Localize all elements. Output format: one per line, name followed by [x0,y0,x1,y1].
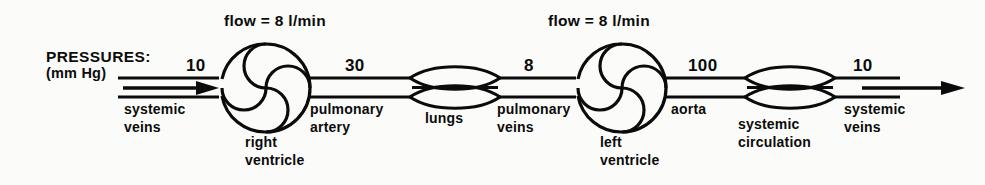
organ-label-right-ventricle-line2: ventricle [245,152,304,169]
organ-label-left-ventricle-line2: ventricle [600,152,659,169]
pressure-value-aorta: 100 [688,56,718,76]
vessel-pulmonary-artery [308,78,410,97]
vessel-label-pulmonary-artery-line2: artery [310,119,350,136]
flow-label-pulmonary: flow = 8 l/min [224,12,326,30]
lens-capillary-icon-systemic-circulation [745,67,835,109]
organ-label-systemic-circulation-line1: systemic [738,116,800,133]
arrow-right-icon-outflow [862,81,965,95]
vessel-pulmonary-veins [498,78,576,97]
vessel-label-aorta: aorta [671,101,706,118]
vessel-aorta [664,78,745,97]
vessel-label-pulmonary-veins-line2: veins [497,119,534,136]
circulation-diagram: flow = 8 l/min flow = 8 l/min PRESSURES:… [0,0,985,185]
organ-label-lungs: lungs [425,110,463,127]
pressure-value-pulmonary-veins: 8 [524,56,534,76]
pressures-legend-units: (mm Hg) [46,65,106,82]
vessel-label-systemic-veins-in-line1: systemic [124,101,186,118]
pressure-value-systemic-veins-out: 10 [853,56,873,76]
organ-label-left-ventricle-line1: left [600,134,622,151]
lens-capillary-icon-lungs [410,67,500,109]
pinwheel-pump-icon-right-ventricle [222,44,310,132]
organ-label-systemic-circulation-line2: circulation [738,134,811,151]
vessel-label-systemic-veins-in-line2: veins [124,119,161,136]
pressure-value-systemic-veins-in: 10 [186,56,206,76]
vessel-label-pulmonary-artery-line1: pulmonary [310,101,383,118]
pinwheel-pump-icon-left-ventricle [578,44,666,132]
flow-label-systemic: flow = 8 l/min [548,12,650,30]
vessel-label-systemic-veins-out-line1: systemic [844,101,906,118]
arrow-right-icon-inflow [123,81,219,95]
pressure-value-pulmonary-artery: 30 [345,56,365,76]
vessel-label-systemic-veins-out-line2: veins [844,119,881,136]
pressures-legend-title: PRESSURES: [46,48,151,66]
vessel-label-pulmonary-veins-line1: pulmonary [497,101,570,118]
circulation-schematic-svg [0,0,985,185]
organ-label-right-ventricle-line1: right [245,134,277,151]
